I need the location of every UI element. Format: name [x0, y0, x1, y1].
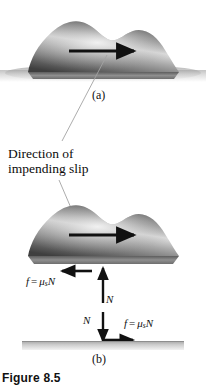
equals-sign-top: = — [31, 275, 37, 287]
block-highlight-a — [28, 21, 179, 72]
figure-canvas — [0, 0, 206, 391]
annotation-line-1: Direction of — [8, 146, 89, 161]
annotation-line-2: impending slip — [8, 161, 89, 176]
panel-a-label: (a) — [92, 88, 105, 103]
normal-symbol-n-top: N — [48, 275, 55, 287]
block-base-band-b — [28, 256, 179, 264]
panel-b — [22, 180, 184, 350]
normal-symbol-n-bottom: N — [146, 317, 153, 329]
block-highlight-b — [28, 205, 179, 256]
friction-force-block-label: f=μsN — [26, 275, 55, 288]
friction-symbol-f-bottom: f — [124, 317, 127, 329]
friction-symbol-f-top: f — [26, 275, 29, 287]
equals-sign-bottom: = — [129, 317, 135, 329]
block-base-band-a — [28, 72, 179, 79]
impending-slip-annotation: Direction of impending slip — [8, 146, 89, 176]
panel-a — [0, 21, 206, 141]
panel-b-label: (b) — [92, 352, 106, 367]
normal-force-down-label: N — [83, 314, 90, 326]
friction-force-ground-label: f=μsN — [124, 317, 153, 330]
figure-8-5: (a) (b) Direction of impending slip f=μs… — [0, 0, 206, 391]
ground-surface-b — [22, 341, 184, 350]
normal-force-up-label: N — [106, 293, 113, 305]
figure-caption: Figure 8.5 — [2, 371, 61, 385]
